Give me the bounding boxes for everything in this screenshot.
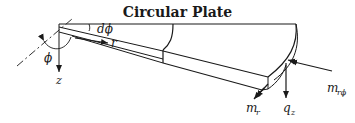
z-label: z	[55, 74, 62, 87]
q-z-label: q z	[283, 101, 296, 117]
m-r-moment-arrow	[254, 84, 268, 99]
svg-text:r: r	[256, 108, 261, 117]
m-rphi-label: m rϕ	[327, 81, 347, 97]
phi-angle-arc	[44, 37, 71, 49]
svg-text:rϕ: rϕ	[337, 88, 347, 97]
circular-plate-diagram: dϕ r ϕ z m r q z m rϕ	[0, 0, 355, 123]
phi-label: ϕ	[44, 51, 52, 65]
m-r-label: m r	[246, 101, 261, 117]
svg-text:q: q	[283, 101, 291, 115]
m-rphi-moment-arrow	[288, 60, 332, 71]
plate-inner-cut	[163, 24, 173, 63]
dphi-label: dϕ	[97, 22, 113, 36]
plate-element	[163, 24, 297, 90]
svg-text:z: z	[290, 108, 296, 117]
dphi-angle-arc	[89, 24, 90, 31]
r-label: r	[111, 36, 118, 50]
